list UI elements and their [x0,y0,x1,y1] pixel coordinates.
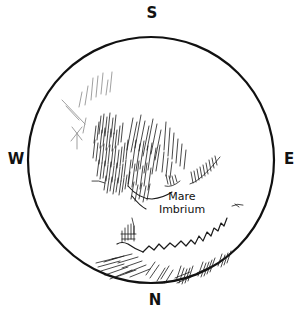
mare-imbrium-label-line1: Mare [146,190,218,203]
mare-imbrium-label: Mare Imbrium [146,190,218,217]
mare-imbrium-label-line2: Imbrium [146,203,218,216]
moon-sketch-svg [0,0,304,317]
cardinal-label-north: N [146,293,164,308]
moon-disc-outline [28,37,274,283]
cardinal-label-west: W [7,152,25,167]
lunar-sketch-figure: S N W E Mare Imbrium [0,0,304,317]
cardinal-label-east: E [281,152,297,167]
cardinal-label-south: S [143,6,161,21]
